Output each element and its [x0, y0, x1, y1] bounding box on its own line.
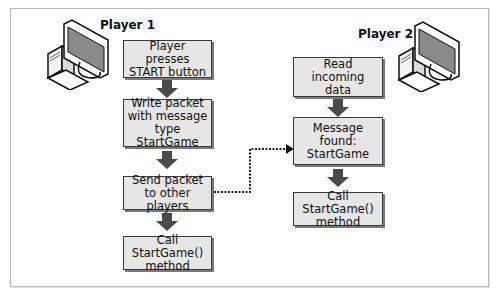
dotted-connector-arrow: [0, 0, 497, 296]
